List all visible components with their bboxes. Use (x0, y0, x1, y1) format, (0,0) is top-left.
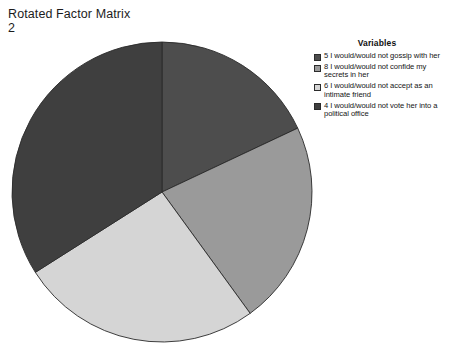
legend-title: Variables (314, 38, 440, 48)
legend-item: 8 I would/would not confide my secrets i… (314, 63, 450, 80)
pie-chart (0, 0, 320, 359)
legend: Variables 5 I would/would not gossip wit… (314, 38, 450, 121)
legend-items: 5 I would/would not gossip with her8 I w… (314, 52, 450, 118)
pie-chart-svg (0, 0, 320, 359)
legend-item-label: 4 I would/would not vote her into a poli… (324, 102, 442, 119)
legend-swatch-icon (314, 84, 321, 91)
pie-slice-group (12, 42, 312, 342)
legend-swatch-icon (314, 103, 321, 110)
legend-item-label: 6 I would/would not accept as an intimat… (324, 82, 442, 99)
legend-item: 6 I would/would not accept as an intimat… (314, 82, 450, 99)
legend-swatch-icon (314, 54, 321, 61)
legend-item: 4 I would/would not vote her into a poli… (314, 102, 450, 119)
legend-item-label: 5 I would/would not gossip with her (324, 52, 440, 60)
legend-swatch-icon (314, 65, 321, 72)
legend-item-label: 8 I would/would not confide my secrets i… (324, 63, 442, 80)
legend-item: 5 I would/would not gossip with her (314, 52, 450, 61)
